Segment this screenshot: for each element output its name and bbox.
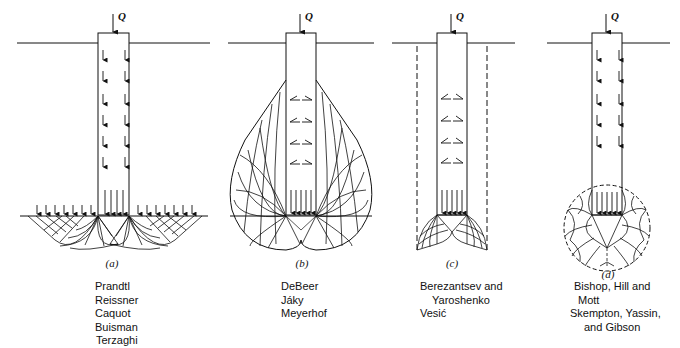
panel-label-a: (a) [92,257,132,269]
failure-zone-right [302,92,368,248]
panel-label-b: (b) [282,257,322,269]
load-symbol: Q [118,10,126,22]
panel-label-d: (d) [588,268,628,280]
load-symbol: Q [611,10,619,22]
authors-list-c: Berezantsev and Yaroshenko Vesić [420,280,503,321]
load-symbol: Q [305,10,313,22]
author-name: Skempton, Yassin, [570,307,661,321]
pile-shaft [286,33,316,215]
authors-list-a: Prandtl Reissner Caquot Buisman Terzaghi [95,280,138,348]
failure-zone-left [28,216,118,249]
panel-c-drawing [392,14,515,250]
author-name: and Gibson [574,321,661,335]
author-name: Buisman [95,321,138,335]
panel-label-c: (c) [432,257,472,269]
author-name: Caquot [95,307,138,321]
tip-pressure-arrows [442,190,462,213]
author-name: Mott [574,294,661,308]
author-name: Reissner [95,294,138,308]
shaft-friction-arrows [441,94,463,163]
panel-d-drawing [547,14,670,271]
author-name: Berezantsev and [420,280,503,294]
author-name: Terzaghi [95,334,138,348]
authors-list-b: DeBeer Jáky Meyerhof [281,280,327,321]
pile-shaft [437,33,467,215]
tip-pressure-arrows [105,190,123,214]
shaft-friction-arrows [597,50,619,146]
tip-pressure-arrows [597,192,617,213]
author-name: Jáky [281,294,327,308]
author-name: DeBeer [281,280,327,294]
failure-zone-left [234,92,316,248]
surcharge-arrows [37,205,192,214]
load-symbol: Q [456,10,464,22]
author-name: Meyerhof [281,307,327,321]
shaft-friction-arrows [290,96,312,164]
author-name: Bishop, Hill and [574,280,661,294]
tip-pressure-arrows [291,190,311,213]
shaft-friction-arrows [103,50,125,167]
failure-zone [417,215,487,250]
author-name: Vesić [420,307,503,321]
panel-a-drawing [17,14,210,249]
authors-list-d: Bishop, Hill and Mott Skempton, Yassin, … [574,280,661,334]
failure-zone-right [110,216,202,249]
author-name: Yaroshenko [420,294,503,308]
author-name: Prandtl [95,280,138,294]
pile-shaft [592,33,622,215]
panel-b-drawing [228,14,374,250]
